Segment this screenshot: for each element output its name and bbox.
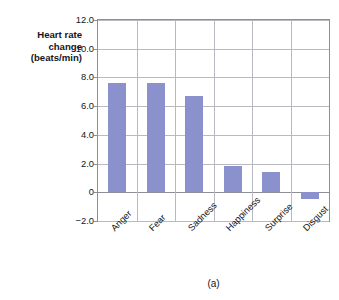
figure-caption: (a) [97,278,330,289]
y-axis-title: Heart rate change (beats/min) [4,29,82,64]
y-tick-mark [94,164,98,165]
y-tick-label: 4.0 [81,130,94,140]
y-tick-label: 0 [89,187,94,197]
x-gridline [214,20,215,221]
y-tick-label: 6.0 [81,101,94,111]
y-tick-mark [94,77,98,78]
plot-area: 12.010.08.06.04.02.00−2.0 [97,19,330,222]
y-axis-title-line-3: (beats/min) [4,52,82,64]
y-tick-mark [94,135,98,136]
bar-surprise [262,172,280,192]
y-tick-mark [94,192,98,193]
x-gridline [252,20,253,221]
bar-anger [108,83,126,192]
bar-disgust [301,192,319,199]
bar-fear [147,83,165,192]
y-tick-label: 10.0 [76,44,94,54]
y-tick-label: 2.0 [81,159,94,169]
x-axis-category-labels: AngerFearSadnessHappinessSurpriseDisgust [97,226,330,276]
x-gridline [137,20,138,221]
y-tick-mark [94,221,98,222]
y-tick-mark [94,49,98,50]
y-axis-title-line-1: Heart rate [4,29,82,41]
bar-happiness [224,166,242,192]
x-gridline [291,20,292,221]
figure-heart-rate-change-bar-chart: Heart rate change (beats/min) 12.010.08.… [0,0,339,300]
y-tick-mark [94,106,98,107]
y-gridline [98,221,329,222]
y-tick-mark [94,20,98,21]
plot-inner: 12.010.08.06.04.02.00−2.0 [98,20,329,221]
y-tick-label: 12.0 [76,15,94,25]
y-axis-title-line-2: change [4,41,82,53]
x-gridline [175,20,176,221]
y-tick-label: 8.0 [81,72,94,82]
bar-sadness [185,96,203,192]
y-tick-label: −2.0 [75,216,94,226]
